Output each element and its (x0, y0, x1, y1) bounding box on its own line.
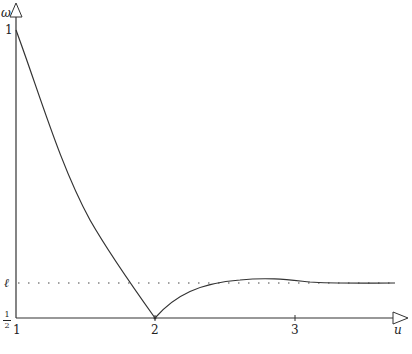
half-denominator: 2 (3, 321, 11, 330)
y-tick-label-1: 1 (5, 24, 13, 36)
y-axis-arrow-icon (10, 3, 22, 17)
x-tick-label-1: 1 (13, 324, 21, 336)
y-axis-label: ω (1, 7, 11, 19)
minimum-point (154, 317, 157, 320)
x-axis-label: u (394, 324, 402, 336)
omega-curve (16, 30, 395, 318)
chart-canvas (0, 0, 412, 354)
x-tick-label-3: 3 (291, 324, 299, 336)
half-numerator: 1 (3, 311, 11, 321)
y-tick-label-ell: ℓ (4, 277, 9, 289)
y-tick-label-half: 1 2 (3, 311, 11, 330)
x-tick-label-2: 2 (151, 324, 159, 336)
